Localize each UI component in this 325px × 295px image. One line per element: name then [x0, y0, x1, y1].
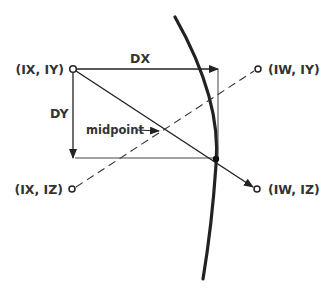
label-midpoint: midpoint — [86, 123, 144, 137]
curve-arc — [175, 17, 217, 279]
intersection-dot — [213, 156, 219, 162]
label-ix-iz: (IX, IZ) — [14, 182, 63, 197]
label-iw-iz: (IW, IZ) — [268, 182, 320, 197]
point-ix-iz — [69, 186, 75, 192]
label-iw-iy: (IW, IY) — [268, 62, 320, 77]
point-iw-iz — [254, 186, 260, 192]
point-iw-iy — [255, 66, 261, 72]
label-dx: DX — [130, 51, 150, 66]
label-dy: DY — [50, 106, 69, 121]
label-ix-iy: (IX, IY) — [15, 62, 64, 77]
point-ix-iy — [70, 66, 77, 73]
midpoint-diagram: (IX, IY) (IW, IY) (IX, IZ) (IW, IZ) DX D… — [0, 0, 325, 295]
